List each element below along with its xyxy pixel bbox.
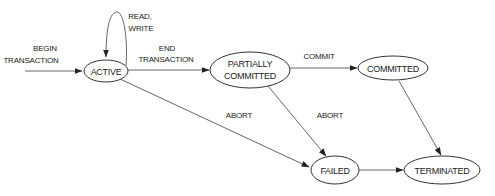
edge-committed-terminated bbox=[399, 81, 441, 155]
state-failed: FAILED bbox=[311, 156, 359, 184]
state-committed-label: COMMITTED bbox=[367, 64, 420, 74]
state-partially-committed: PARTIALLY COMMITTED bbox=[210, 52, 290, 88]
state-committed: COMMITTED bbox=[358, 56, 428, 80]
state-failed-label: FAILED bbox=[320, 166, 350, 176]
label-begin: BEGIN bbox=[33, 44, 57, 53]
transaction-state-diagram: BEGIN TRANSACTION READ, WRITE END TRANSA… bbox=[0, 0, 495, 196]
state-active: ACTIVE bbox=[84, 60, 128, 82]
state-partially-label: PARTIALLY bbox=[228, 59, 273, 69]
label-read: READ, bbox=[128, 12, 151, 21]
edge-read-write-loop bbox=[106, 12, 127, 66]
state-terminated-label: TERMINATED bbox=[415, 166, 471, 176]
state-terminated: TERMINATED bbox=[404, 156, 480, 184]
label-abort-partial: ABORT bbox=[317, 111, 344, 120]
label-end: END bbox=[159, 44, 176, 53]
state-active-label: ACTIVE bbox=[91, 67, 122, 77]
edge-partial-abort bbox=[268, 86, 326, 156]
label-commit: COMMIT bbox=[303, 52, 335, 61]
label-abort-active: ABORT bbox=[226, 111, 253, 120]
edge-active-abort bbox=[120, 79, 309, 167]
label-write: WRITE bbox=[129, 24, 154, 33]
state-committed-line-label: COMMITTED bbox=[224, 71, 277, 81]
label-begin-transaction: TRANSACTION bbox=[3, 56, 59, 65]
label-end-transaction: TRANSACTION bbox=[138, 55, 194, 64]
